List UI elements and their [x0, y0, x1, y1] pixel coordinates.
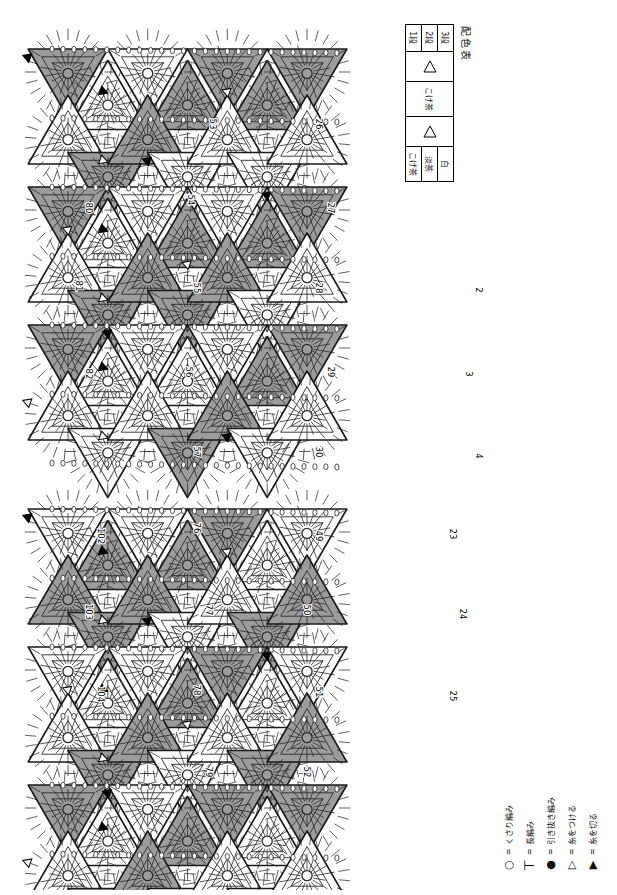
legend-equals: =	[504, 848, 513, 855]
motif-number: 79	[204, 767, 214, 778]
legend-label: 糸を切る	[587, 813, 598, 845]
legend-label: くさり編み	[503, 805, 514, 845]
legend-row: ○=くさり編み	[498, 760, 519, 872]
motif-number: 55	[192, 283, 202, 294]
motif-number: 102	[96, 528, 106, 544]
cut-yarn-icon: ▶	[587, 858, 598, 872]
motif-number: 51	[314, 687, 324, 698]
motif-number: 57	[192, 447, 202, 458]
legend-row: ▶=糸を切る	[582, 760, 603, 872]
motif-number: 23	[448, 529, 458, 540]
color-chart-color-name: こげ茶	[406, 147, 422, 182]
color-chart-color-name: 淡茶	[422, 147, 438, 182]
motif-number: 81	[74, 281, 84, 292]
motif-number: 82	[84, 369, 94, 380]
triangle-filled-icon	[406, 51, 454, 82]
motif-number: 76	[192, 523, 202, 534]
motif-number: 80	[84, 203, 94, 214]
color-chart-table: 3段こげ茶白2段淡茶1段こげ茶	[405, 24, 454, 182]
motif-number: 52	[302, 767, 312, 778]
join-yarn-icon: ▷	[566, 858, 577, 872]
motif-number: 3	[464, 371, 474, 376]
motif-number: 29	[326, 367, 336, 378]
color-chart-row-label: 3段	[438, 25, 454, 52]
motif-number: 77	[204, 605, 214, 616]
motif-number: 49	[314, 531, 324, 542]
color-chart-row: 3段こげ茶白	[438, 25, 454, 182]
stitch-legend: ○=くさり編み丅=長編み●=引き抜き編み▷=糸をつける▶=糸を切る	[498, 760, 616, 890]
chain-stitch-icon: ○	[503, 858, 514, 872]
color-chart-row-label: 2段	[422, 25, 438, 52]
motif-number: 4	[474, 453, 484, 458]
legend-equals: =	[546, 848, 555, 855]
motif-number: 28	[314, 283, 324, 294]
color-chart: 配色表 3段こげ茶白2段淡茶1段こげ茶	[476, 22, 616, 182]
color-chart-color-name: 白	[438, 147, 454, 182]
legend-row: 丅=長編み	[519, 760, 540, 872]
legend-label: 長編み	[524, 821, 535, 845]
double-crochet-icon: 丅	[524, 858, 535, 872]
legend-label: 糸をつける	[566, 805, 577, 845]
motif-number: 26	[314, 119, 324, 130]
legend-equals: =	[525, 848, 534, 855]
join-yarn-icon	[21, 396, 32, 407]
motif-number: 50	[302, 605, 312, 616]
motif-number: 25	[448, 691, 458, 702]
motif-number: 56	[184, 367, 194, 378]
motif-number: 54	[186, 195, 196, 206]
join-yarn-icon	[21, 856, 32, 867]
motif-number: 103	[84, 604, 94, 620]
color-chart-row-label: 1段	[406, 25, 422, 52]
legend-equals: =	[588, 848, 597, 855]
color-chart-title: 配色表	[459, 26, 474, 62]
motif-number: 30	[314, 447, 324, 458]
diagram-canvas: .motif-body{stroke:none;} .motif-edge{fi…	[0, 0, 617, 895]
legend-equals: =	[567, 848, 576, 855]
motif-number: 53	[208, 119, 218, 130]
motif-number: 78	[192, 685, 202, 696]
motif-number: 2	[474, 287, 484, 292]
legend-row: ●=引き抜き編み	[540, 760, 561, 872]
color-chart-group-left-name: こげ茶	[406, 82, 454, 117]
slip-stitch-icon: ●	[545, 858, 556, 872]
triangle-outline-icon	[406, 116, 454, 147]
motif-number: 27	[326, 203, 336, 214]
motif-number: 24	[458, 609, 468, 620]
legend-row: ▷=糸をつける	[561, 760, 582, 872]
legend-label: 引き抜き編み	[545, 797, 556, 845]
motif-number: 104	[96, 686, 106, 702]
